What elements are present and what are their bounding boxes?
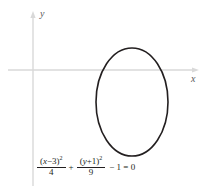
- ellipse-equation: (x−3)2 4 + (y+1)2 9 − 1 = 0: [36, 157, 137, 178]
- fraction-first-denominator: 4: [46, 168, 57, 178]
- x-axis-arrowhead: [192, 67, 199, 72]
- x-axis-label: x: [191, 74, 195, 84]
- y-axis-label: y: [40, 9, 44, 19]
- exponent-two: 2: [99, 155, 102, 161]
- fraction-second: (y+1)2 9: [77, 157, 106, 178]
- exponent-two: 2: [60, 155, 63, 161]
- ellipse-curve: [96, 48, 168, 156]
- fraction-first: (x−3)2 4: [37, 157, 66, 178]
- fraction-first-numerator: (x−3)2: [37, 157, 66, 167]
- equation-tail: − 1 = 0: [106, 162, 137, 172]
- plus-operator: +: [67, 162, 76, 172]
- fraction-second-numerator: (y+1)2: [77, 157, 106, 167]
- ellipse-figure: y x (x−3)2 4 + (y+1)2 9 − 1 = 0: [0, 0, 207, 192]
- y-axis-arrowhead: [30, 11, 35, 18]
- fraction-second-denominator: 9: [86, 168, 97, 178]
